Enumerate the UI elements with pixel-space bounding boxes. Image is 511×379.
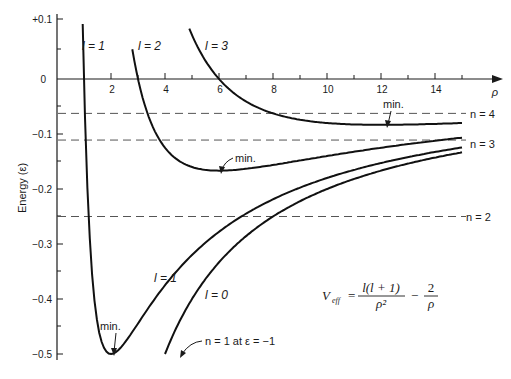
y-tick-label: −0.3 <box>32 239 52 250</box>
svg-text:ρ²: ρ² <box>375 296 387 311</box>
x-tick-label: 12 <box>376 84 388 95</box>
x-tick-label: 8 <box>271 84 277 95</box>
svg-text:min.: min. <box>235 152 256 164</box>
curve-l1 <box>83 24 462 354</box>
svg-text:min.: min. <box>383 98 404 110</box>
potential-curves <box>83 24 462 354</box>
x-tick-label: 6 <box>217 84 223 95</box>
x-tick-label: 2 <box>109 84 115 95</box>
y-tick-label: +0.1 <box>32 14 52 25</box>
svg-text:eff: eff <box>332 296 342 305</box>
y-axis <box>57 14 63 360</box>
svg-text:2: 2 <box>428 280 435 295</box>
x-axis <box>57 75 503 83</box>
curve-l3 <box>189 29 462 125</box>
svg-text:=: = <box>348 288 355 303</box>
level-label-n3: n = 3 <box>470 138 495 150</box>
y-tick-labels: +0.1 0 −0.1 −0.2 −0.3 −0.4 −0.5 <box>32 14 52 360</box>
curve-label-l3-top: l = 3 <box>205 39 228 53</box>
y-axis-label: Energy (ε) <box>16 163 28 213</box>
svg-text:min.: min. <box>100 320 121 332</box>
x-axis-label: ρ <box>491 86 498 98</box>
level-label-n2: n = 2 <box>466 211 491 223</box>
arrow-icon <box>180 350 186 358</box>
svg-text:ρ: ρ <box>427 296 434 311</box>
svg-text:−: − <box>411 288 418 303</box>
y-tick-label: −0.2 <box>32 184 52 195</box>
effective-potential-chart: +0.1 0 −0.1 −0.2 −0.3 −0.4 −0.5 Energy (… <box>0 0 511 379</box>
svg-text:n = 1 at ε = −1: n = 1 at ε = −1 <box>205 335 275 347</box>
x-tick-label: 4 <box>163 84 169 95</box>
level-label-n4: n = 4 <box>470 108 495 120</box>
svg-text:V: V <box>322 288 332 303</box>
x-tick-label: 14 <box>430 84 442 95</box>
y-tick-label: −0.1 <box>32 129 52 140</box>
curve-l2 <box>132 49 462 170</box>
curve-label-l0-low: l = 0 <box>205 288 228 302</box>
x-ticks <box>84 73 462 79</box>
veff-formula: V eff = l(l + 1) ρ² − 2 ρ <box>322 280 438 311</box>
y-tick-label: −0.5 <box>32 349 52 360</box>
curve-label-l1-top: l = 1 <box>82 39 105 53</box>
svg-text:l(l + 1): l(l + 1) <box>362 280 400 295</box>
x-tick-label: 10 <box>322 84 334 95</box>
y-tick-label: −0.4 <box>32 294 52 305</box>
n1-annotation: n = 1 at ε = −1 <box>180 335 275 358</box>
curve-label-l1-low: l = 1 <box>154 271 177 285</box>
curve-label-l2-top: l = 2 <box>138 39 161 53</box>
x-tick-labels: 2 4 6 8 10 12 14 <box>109 84 442 95</box>
y-tick-label: 0 <box>40 74 46 85</box>
arrow-right-icon <box>492 75 503 83</box>
